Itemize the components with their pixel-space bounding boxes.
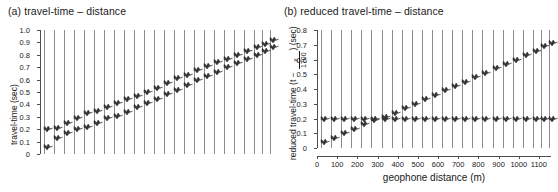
x-tick-label: 400 [391, 160, 404, 169]
y-tick [37, 142, 40, 143]
seismic-trace [134, 30, 135, 154]
seismic-trace [174, 30, 175, 154]
x-tick-label: 1000 [510, 160, 527, 169]
y-tick [314, 60, 317, 61]
seismic-trace [254, 30, 255, 154]
seismic-trace [513, 30, 514, 148]
seismic-trace [533, 30, 534, 148]
seismic-trace [432, 30, 433, 148]
y-tick-label: 0.2 [20, 125, 30, 134]
panel-a: (a) travel-time – distance travel-time (… [0, 0, 279, 192]
x-tick [519, 156, 520, 159]
seismic-trace [124, 30, 125, 154]
y-tick [37, 117, 40, 118]
panel-b-title: (b) reduced travel-time – distance [284, 5, 444, 17]
seismic-trace [549, 30, 550, 148]
y-tick-label: 0 [303, 144, 307, 153]
seismic-trace [482, 30, 483, 148]
x-tick [337, 156, 338, 159]
x-tick-label: 1100 [531, 160, 547, 169]
y-tick [37, 92, 40, 93]
y-tick-label: 0.6 [20, 75, 30, 84]
panel-a-ylabel: travel-time (sec) [9, 84, 19, 145]
seismic-trace [422, 30, 423, 148]
x-tick [357, 156, 358, 159]
y-tick [314, 74, 317, 75]
seismic-trace [341, 30, 342, 148]
y-tick [37, 55, 40, 56]
seismic-trace [244, 30, 245, 154]
x-tick-label: 100 [331, 160, 344, 169]
y-tick-label: 0.1 [297, 129, 307, 138]
seismic-trace [184, 30, 185, 154]
y-tick-label: 0.5 [297, 70, 307, 79]
y-tick [37, 30, 40, 31]
seismic-trace [204, 30, 205, 154]
panel-b-x-axis-area: 010020030040050060070080090010001100 geo… [317, 156, 551, 190]
y-tick [314, 45, 317, 46]
x-tick [398, 156, 399, 159]
y-tick [37, 129, 40, 130]
panel-b-y-axis [317, 30, 318, 148]
seismic-trace [331, 30, 332, 148]
panel-b-xlabel: geophone distance (m) [317, 172, 551, 183]
x-tick-label: 200 [351, 160, 364, 169]
y-tick [37, 67, 40, 68]
seismic-trace [452, 30, 453, 148]
seismic-trace [270, 30, 271, 154]
seismic-trace [144, 30, 145, 154]
seismic-trace [472, 30, 473, 148]
y-tick-label: 0.8 [20, 50, 30, 59]
y-tick [37, 42, 40, 43]
y-tick-label: 0.3 [297, 99, 307, 108]
y-tick [314, 148, 317, 149]
seismic-trace [361, 30, 362, 148]
seismic-trace [382, 30, 383, 148]
x-tick-label: 700 [452, 160, 465, 169]
seismic-trace [214, 30, 215, 154]
panel-b-x-axis-line [317, 156, 551, 157]
y-tick-label: 0.3 [20, 112, 30, 121]
seismic-trace [392, 30, 393, 148]
x-tick-label: 0 [315, 160, 319, 169]
y-tick [314, 133, 317, 134]
y-tick-label: 0.4 [297, 85, 307, 94]
x-tick-label: 500 [412, 160, 425, 169]
x-tick-label: 900 [492, 160, 505, 169]
x-tick [438, 156, 439, 159]
y-tick-label: 1.0 [20, 26, 30, 35]
seismic-trace [321, 30, 322, 148]
panel-a-y-axis [40, 30, 41, 154]
seismic-trace [114, 30, 115, 154]
x-tick [317, 156, 318, 159]
seismic-trace [84, 30, 85, 154]
seismic-trace [194, 30, 195, 154]
seismic-trace [164, 30, 165, 154]
y-tick-label: 0.2 [297, 114, 307, 123]
seismic-trace [503, 30, 504, 148]
seismic-trace [44, 30, 45, 154]
x-tick-label: 800 [472, 160, 485, 169]
y-tick-label: 0.7 [20, 63, 30, 72]
seismic-trace [64, 30, 65, 154]
y-tick [37, 154, 40, 155]
x-tick [378, 156, 379, 159]
x-tick-label: 600 [432, 160, 445, 169]
seismic-trace [262, 30, 263, 154]
x-tick [458, 156, 459, 159]
seismic-trace [54, 30, 55, 154]
x-tick [478, 156, 479, 159]
y-tick-label: 0.4 [20, 100, 30, 109]
panel-b: (b) reduced travel-time – distance reduc… [279, 0, 558, 192]
seismic-trace [523, 30, 524, 148]
y-tick [37, 104, 40, 105]
y-tick-label: 0.7 [297, 40, 307, 49]
y-tick-label: 0 [26, 150, 30, 159]
seismic-trace [224, 30, 225, 154]
panel-a-title: (a) travel-time – distance [8, 5, 126, 17]
x-tick [418, 156, 419, 159]
seismic-trace [541, 30, 542, 148]
panel-a-plot-area: 00.10.20.30.40.50.60.70.80.91.0 [40, 30, 272, 154]
seismic-figure: (a) travel-time – distance travel-time (… [0, 0, 558, 192]
y-tick [314, 104, 317, 105]
